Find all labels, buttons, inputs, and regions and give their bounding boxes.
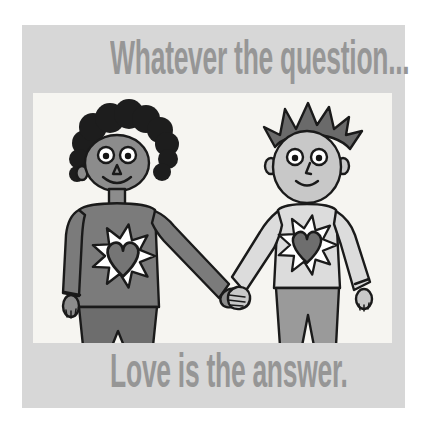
left-boy-pupil-right: [125, 153, 131, 159]
bottom-caption: Love is the answer.: [110, 346, 317, 395]
poster-card: Whatever the question...: [22, 25, 405, 408]
illustration-panel: [33, 93, 392, 343]
left-boy: [63, 99, 229, 343]
left-boy-right-arm: [152, 211, 229, 298]
right-boy-pupil-left: [292, 155, 298, 161]
top-caption: Whatever the question...: [110, 33, 317, 82]
right-boy-pupil-right: [316, 155, 322, 161]
right-boy-face: [273, 131, 341, 203]
left-boy-pants: [79, 307, 157, 343]
two-boys-holding-hands-illustration: [33, 93, 392, 343]
right-boy-pants: [276, 288, 339, 343]
right-boy: [232, 103, 372, 343]
left-boy-pupil-left: [103, 153, 109, 159]
